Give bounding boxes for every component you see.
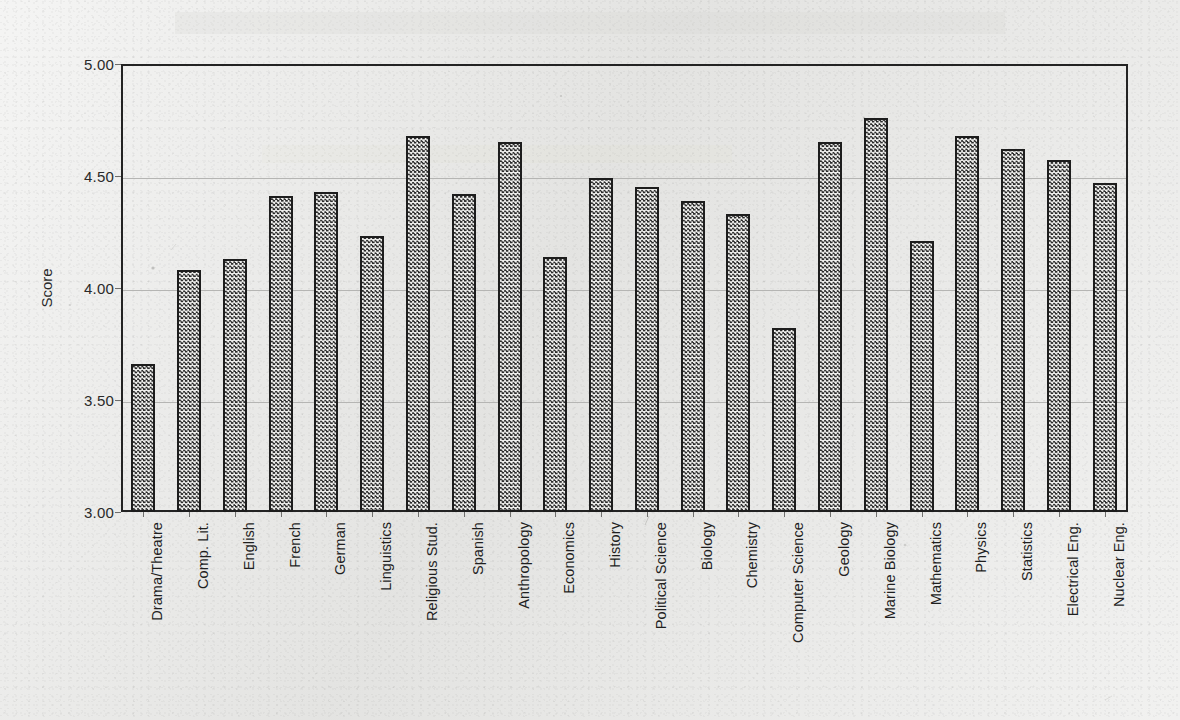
bar[interactable] [772,328,796,512]
x-axis-tick-mark [143,512,144,517]
x-axis-tick-mark [555,512,556,517]
x-axis-tick-label: Statistics [1019,522,1035,581]
x-axis-tick-mark [876,512,877,517]
x-axis-tick-mark [1059,512,1060,517]
bar[interactable] [818,142,842,512]
x-axis-tick-label: Comp. Lit. [195,522,211,589]
x-axis-tick-label: History [607,522,623,568]
x-axis-tick-label: Religious Stud. [424,522,440,621]
x-axis-tick-mark [830,512,831,517]
bar[interactable] [314,192,338,512]
x-axis-tick-mark [372,512,373,517]
bar[interactable] [131,364,155,512]
bar[interactable] [360,236,384,512]
x-axis-tick-mark [281,512,282,517]
x-axis-tick-label: Electrical Eng. [1065,522,1081,616]
x-axis-tick-label: Mathematics [928,522,944,605]
x-axis-tick-label: German [332,522,348,575]
x-axis-tick-mark [418,512,419,517]
x-axis-tick-label: Spanish [470,522,486,575]
x-axis-tick-mark [784,512,785,517]
x-axis-tick-label: English [241,522,257,570]
x-axis-tick-mark [464,512,465,517]
x-axis-tick-label: Physics [973,522,989,573]
bar[interactable] [1093,183,1117,512]
x-axis-tick-mark [189,512,190,517]
x-axis-tick-mark [738,512,739,517]
bar[interactable] [681,201,705,512]
x-axis-tick-label: Biology [699,522,715,570]
bars-layer [0,0,1180,720]
x-axis-tick-mark [1105,512,1106,517]
bar[interactable] [177,270,201,512]
x-axis-tick-label: Drama/Theatre [149,522,165,621]
x-axis-tick-label: Anthropology [516,522,532,609]
x-axis-tick-mark [326,512,327,517]
x-axis-tick-label: Political Science [653,522,669,629]
bar[interactable] [910,241,934,512]
bar[interactable] [864,118,888,512]
x-axis-tick-mark [601,512,602,517]
bar[interactable] [589,178,613,512]
x-axis-tick-mark [967,512,968,517]
x-axis-tick-mark [510,512,511,517]
x-axis-tick-label: Computer Science [790,522,806,643]
x-axis-tick-mark [922,512,923,517]
x-axis-tick-mark [1013,512,1014,517]
bar[interactable] [726,214,750,512]
x-axis-tick-label: Linguistics [378,522,394,591]
bar[interactable] [955,136,979,512]
bar[interactable] [1047,160,1071,512]
bar[interactable] [269,196,293,512]
x-axis-tick-mark [693,512,694,517]
bar[interactable] [406,136,430,512]
x-axis-tick-label: French [287,522,303,568]
x-axis-tick-label: Chemistry [744,522,760,588]
x-axis-tick-label: Marine Biology [882,522,898,619]
bar[interactable] [498,142,522,512]
bar-chart-figure: Score 5.004.504.003.503.00 Drama/Theatre… [0,0,1180,720]
x-axis-tick-label: Nuclear Eng. [1111,522,1127,607]
bar[interactable] [635,187,659,512]
bar[interactable] [543,257,567,512]
bar[interactable] [1001,149,1025,512]
x-axis-tick-label: Economics [561,522,577,594]
x-axis-tick-mark [647,512,648,517]
x-axis-tick-label: Geology [836,522,852,577]
x-axis-tick-mark [235,512,236,517]
bar[interactable] [452,194,476,512]
bar[interactable] [223,259,247,512]
